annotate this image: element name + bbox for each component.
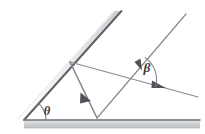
- horizontal-mirror-slab: [24, 121, 200, 129]
- reflection-diagram-figure: θ β: [0, 0, 205, 134]
- incident-ray-arrowhead: [135, 59, 143, 71]
- theta-angle-label: θ: [44, 104, 51, 118]
- exit-ray-arrowhead: [152, 81, 167, 89]
- inclined-mirror-edge-highlight: [18, 12, 115, 120]
- diagram-canvas: θ β: [0, 0, 205, 134]
- incident-ray: [97, 14, 186, 118]
- reflected-ray-from-incline: [70, 62, 97, 118]
- inclined-mirror-slab: [17, 11, 121, 120]
- exit-ray: [70, 62, 198, 97]
- inclined-mirror-surface: [24, 11, 122, 120]
- beta-angle-label: β: [143, 60, 151, 75]
